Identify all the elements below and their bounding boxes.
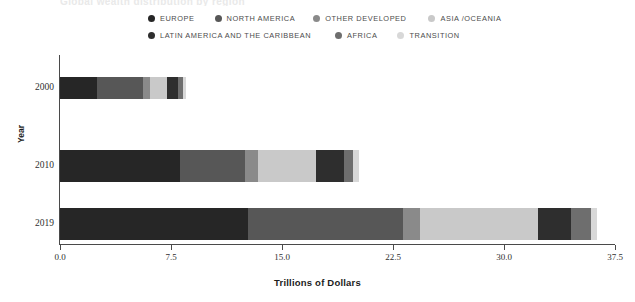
- legend-item[interactable]: TRANSITION: [397, 31, 459, 40]
- chart-canvas: Global wealth distribution by region EUR…: [0, 0, 635, 302]
- bar-segment[interactable]: [60, 208, 248, 240]
- bar-group-2019: [60, 208, 615, 240]
- x-tick-label: 7.5: [165, 252, 176, 262]
- x-tick-label: 37.5: [607, 252, 623, 262]
- x-tick-label: 30.0: [496, 252, 512, 262]
- legend-item[interactable]: NORTH AMERICA: [215, 14, 296, 23]
- legend-row-2: LATIN AMERICA AND THE CARIBBEANAFRICATRA…: [148, 28, 618, 42]
- legend-label: TRANSITION: [409, 31, 459, 40]
- bar-segment[interactable]: [167, 77, 179, 99]
- x-axis-title: Trillions of Dollars: [0, 277, 635, 288]
- legend-label: EUROPE: [160, 14, 195, 23]
- bar-segment[interactable]: [353, 150, 359, 182]
- bar-group-2010: [60, 150, 615, 182]
- x-tick-label: 15.0: [274, 252, 290, 262]
- bar-segment[interactable]: [150, 77, 166, 99]
- legend-item[interactable]: OTHER DEVELOPED: [313, 14, 406, 23]
- bar-segment[interactable]: [316, 150, 344, 182]
- legend-swatch-dot-icon: [428, 15, 435, 22]
- y-tick: 2010: [0, 160, 54, 170]
- bar-group-2000: [60, 77, 615, 99]
- bar-segment[interactable]: [403, 208, 419, 240]
- y-tick: 2019: [0, 218, 54, 228]
- legend-label: NORTH AMERICA: [227, 14, 296, 23]
- bar-segment[interactable]: [183, 77, 186, 99]
- bar-segment[interactable]: [143, 77, 150, 99]
- y-tick: 2000: [0, 82, 54, 92]
- bar-segment[interactable]: [571, 208, 592, 240]
- x-tick-mark: [282, 245, 283, 250]
- legend-label: AFRICA: [347, 31, 377, 40]
- legend-swatch-dot-icon: [148, 15, 155, 22]
- bar-segment[interactable]: [591, 208, 597, 240]
- y-tick-label: 2010: [0, 160, 54, 170]
- legend-swatch-dot-icon: [215, 15, 222, 22]
- y-axis-title: Year: [16, 125, 26, 143]
- bar-segment[interactable]: [538, 208, 571, 240]
- y-tick-label: 2019: [0, 218, 54, 228]
- legend-item[interactable]: ASIA /OCEANIA: [428, 14, 501, 23]
- bar-segment[interactable]: [180, 150, 245, 182]
- legend-swatch-dot-icon: [148, 32, 155, 39]
- x-tick-label: 0.0: [54, 252, 65, 262]
- bar-segment[interactable]: [97, 77, 143, 99]
- bar-segment[interactable]: [344, 150, 353, 182]
- chart-legend: EUROPENORTH AMERICAOTHER DEVELOPEDASIA /…: [148, 11, 618, 42]
- x-tick-mark: [171, 245, 172, 250]
- bar-segment[interactable]: [258, 150, 316, 182]
- bar-segment[interactable]: [245, 150, 258, 182]
- x-tick-mark: [615, 245, 616, 250]
- x-tick-mark: [504, 245, 505, 250]
- legend-swatch-dot-icon: [313, 15, 320, 22]
- x-tick-mark: [393, 245, 394, 250]
- x-tick-label: 22.5: [385, 252, 401, 262]
- bar-segment[interactable]: [420, 208, 538, 240]
- legend-item[interactable]: EUROPE: [148, 14, 195, 23]
- clipped-title: Global wealth distribution by region: [60, 0, 540, 6]
- legend-label: LATIN AMERICA AND THE CARIBBEAN: [160, 31, 311, 40]
- legend-swatch-dot-icon: [397, 32, 404, 39]
- legend-row-1: EUROPENORTH AMERICAOTHER DEVELOPEDASIA /…: [148, 11, 618, 25]
- legend-swatch-dot-icon: [335, 32, 342, 39]
- legend-item[interactable]: AFRICA: [335, 31, 377, 40]
- legend-item[interactable]: LATIN AMERICA AND THE CARIBBEAN: [148, 31, 311, 40]
- bar-segment[interactable]: [248, 208, 403, 240]
- x-tick-mark: [60, 245, 61, 250]
- y-tick-label: 2000: [0, 82, 54, 92]
- legend-label: ASIA /OCEANIA: [440, 14, 501, 23]
- plot-area: [60, 55, 615, 245]
- legend-label: OTHER DEVELOPED: [325, 14, 406, 23]
- bar-segment[interactable]: [60, 150, 180, 182]
- bar-segment[interactable]: [60, 77, 97, 99]
